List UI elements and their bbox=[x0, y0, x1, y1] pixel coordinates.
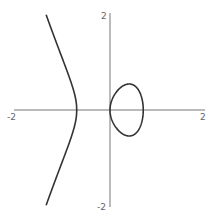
y-min-label: -2 bbox=[97, 202, 106, 212]
x-max-label: 2 bbox=[200, 112, 206, 122]
curve-plot: -2 2 2 -2 bbox=[0, 0, 213, 220]
x-min-label: -2 bbox=[7, 112, 16, 122]
y-max-label: 2 bbox=[101, 11, 107, 21]
